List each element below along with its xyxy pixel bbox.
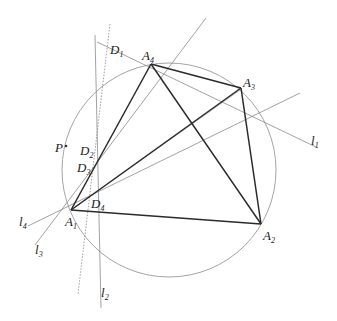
geometry-diagram: A1A2A3A4D1D2D3D4Pl1l2l3l4: [0, 0, 337, 321]
label-P: P: [54, 140, 63, 155]
point-P: [65, 145, 68, 148]
background: [0, 0, 337, 321]
points: [65, 145, 68, 148]
